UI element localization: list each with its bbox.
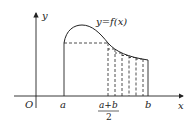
dashed-partitions <box>108 43 143 96</box>
origin-label: O <box>25 99 33 110</box>
b-label: b <box>145 99 151 110</box>
curve-f <box>64 25 148 60</box>
a-label: a <box>60 99 66 110</box>
midpoint-numerator: a+b <box>99 100 118 110</box>
integral-diagram: y=f(x) y x O a b a+b 2 <box>0 0 194 133</box>
y-axis-label: y <box>41 10 48 21</box>
x-axis-label: x <box>178 100 184 111</box>
midpoint-denominator: 2 <box>106 112 112 122</box>
curve-label: y=f(x) <box>95 16 127 27</box>
